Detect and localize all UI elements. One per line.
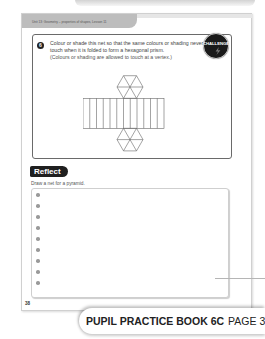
bullet-icon (36, 248, 40, 252)
margin-line (215, 278, 265, 279)
footer-text: PUPIL PRACTICE BOOK 6CPAGE 38 (86, 315, 265, 327)
reflect-heading: Reflect (30, 166, 68, 177)
lightning-bolt-icon (214, 47, 222, 55)
bullet-icon (36, 259, 40, 263)
bullet-icon (36, 270, 40, 274)
book-title: PUPIL PRACTICE BOOK 6C (86, 315, 224, 327)
page-number: 38 (25, 301, 30, 306)
bullet-icon (36, 215, 40, 219)
workbook-page: Unit 13: Geometry – properties of shapes… (21, 13, 252, 311)
hexagonal-prism-net[interactable] (83, 74, 167, 156)
reflect-prompt: Draw a net for a pyramid. (31, 181, 85, 186)
footer-banner: PUPIL PRACTICE BOOK 6CPAGE 38 (79, 308, 265, 334)
page-header: Unit 13: Geometry – properties of shapes… (22, 14, 137, 28)
book-page: PAGE 38 (228, 315, 265, 327)
bullet-icon (36, 281, 40, 285)
unit-lesson-label: Unit 13: Geometry – properties of shapes… (32, 20, 107, 24)
page-header-bar (137, 14, 253, 18)
bullet-icon (36, 193, 40, 197)
bullet-icon (36, 226, 40, 230)
question-number: 6 (37, 42, 44, 49)
challenge-badge: CHALLENGE (203, 33, 229, 59)
question-text: Colour or shade this net so that the sam… (50, 40, 210, 53)
reflect-answer-area[interactable] (31, 188, 229, 298)
bullet-icon (36, 204, 40, 208)
question-note: (Colours or shading are allowed to touch… (50, 54, 210, 61)
question-box: 6 Colour or shade this net so that the s… (32, 34, 232, 159)
challenge-label: CHALLENGE (203, 41, 229, 46)
bullet-icon (36, 237, 40, 241)
top-shadow (75, 0, 255, 6)
